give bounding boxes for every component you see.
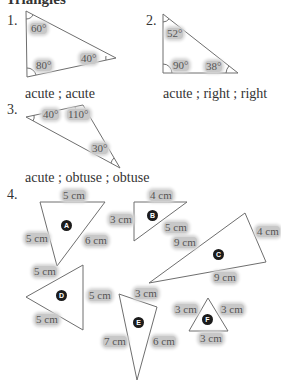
side-label-A-right: 6 cm	[84, 235, 108, 246]
side-label-A-left: 5 cm	[25, 233, 49, 244]
answer-2: acute ; right ; right	[163, 87, 267, 101]
side-label-F-left: 3 cm	[174, 304, 198, 315]
answer-3: acute ; obtuse ; obtuse	[25, 171, 149, 185]
side-label-F-bottom: 3 cm	[199, 333, 223, 344]
side-label-C-right: 4 cm	[256, 226, 280, 237]
side-label-E-right: 6 cm	[152, 336, 176, 347]
triangle-badge-E: E	[133, 317, 144, 328]
angle-label-1c: 40°	[80, 53, 97, 64]
side-label-C-bottom: 9 cm	[213, 272, 237, 283]
problem-number-3: 3.	[7, 103, 18, 117]
angle-label-3c: 30°	[91, 143, 108, 154]
angle-label-1a: 60°	[30, 23, 47, 34]
triangle-badge-D: D	[56, 290, 67, 301]
side-label-B-top: 4 cm	[149, 190, 173, 201]
angle-label-3a: 40°	[42, 109, 59, 120]
triangle-badge-C: C	[213, 249, 224, 260]
angle-label-2c: 38°	[205, 61, 222, 72]
answer-1: acute ; acute	[25, 87, 95, 101]
angle-arc-1a	[26, 15, 33, 19]
side-label-A-top: 5 cm	[62, 190, 86, 201]
problem-number-1: 1.	[7, 14, 18, 28]
side-label-D-bottom: 5 cm	[35, 314, 59, 325]
side-label-B-hyp: 5 cm	[164, 222, 188, 233]
triangle-badge-F: F	[202, 314, 213, 325]
side-label-E-top: 3 cm	[134, 288, 158, 299]
angle-arc-2b	[163, 64, 172, 73]
angle-arc-2c	[226, 66, 229, 73]
angle-label-2a: 52°	[166, 28, 183, 39]
side-label-D-top: 5 cm	[33, 266, 57, 277]
angle-label-2b: 90°	[172, 60, 189, 71]
side-label-E-left: 7 cm	[103, 336, 127, 347]
problem-number-4: 4.	[7, 188, 18, 202]
angle-label-1b: 80°	[35, 60, 52, 71]
side-label-F-right: 3 cm	[220, 304, 244, 315]
angle-arc-2a	[163, 19, 169, 22]
angle-arc-3c	[111, 158, 114, 163]
side-label-D-right: 5 cm	[88, 290, 112, 301]
angle-label-3b: 110°	[67, 109, 90, 120]
worksheet-page: Triangles 1. 60° 80	[0, 0, 281, 389]
side-label-B-left: 3 cm	[109, 214, 133, 225]
problem-number-2: 2.	[146, 14, 157, 28]
triangle-badge-B: B	[147, 210, 158, 221]
triangle-badge-A: A	[61, 220, 72, 231]
side-label-C-left: 9 cm	[173, 237, 197, 248]
